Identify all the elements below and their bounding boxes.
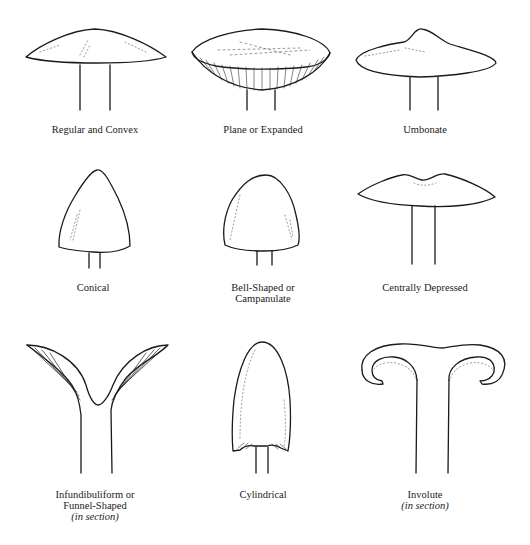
label-cylindrical: Cylindrical bbox=[178, 489, 348, 500]
label-text: Campanulate bbox=[178, 293, 348, 304]
label-conical: Conical bbox=[8, 282, 178, 293]
bell-shaped-illustration bbox=[224, 175, 299, 265]
centrally-depressed-illustration bbox=[358, 174, 495, 264]
label-text: Centrally Depressed bbox=[340, 282, 510, 293]
label-text: Regular and Convex bbox=[10, 124, 180, 135]
label-bell-shaped: Bell-Shaped or Campanulate bbox=[178, 282, 348, 304]
involute-illustration bbox=[362, 344, 505, 473]
label-text: Funnel-Shaped bbox=[10, 500, 180, 511]
label-text: Umbonate bbox=[340, 124, 510, 135]
umbonate-illustration bbox=[356, 29, 496, 110]
label-note: (in section) bbox=[340, 500, 510, 511]
label-note: (in section) bbox=[10, 511, 180, 522]
infundibuliform-illustration bbox=[27, 345, 168, 473]
label-involute: Involute (in section) bbox=[340, 489, 510, 511]
cap-shapes-figure bbox=[0, 0, 530, 545]
label-text: Involute bbox=[340, 489, 510, 500]
conical-illustration bbox=[59, 170, 130, 268]
cylindrical-illustration bbox=[232, 342, 290, 473]
label-text: Bell-Shaped or bbox=[178, 282, 348, 293]
regular-convex-illustration bbox=[26, 29, 166, 110]
label-text: Plane or Expanded bbox=[178, 124, 348, 135]
label-umbonate: Umbonate bbox=[340, 124, 510, 135]
label-text: Cylindrical bbox=[178, 489, 348, 500]
label-plane-expanded: Plane or Expanded bbox=[178, 124, 348, 135]
label-infundibuliform: Infundibuliform or Funnel-Shaped (in sec… bbox=[10, 489, 180, 522]
label-centrally-depressed: Centrally Depressed bbox=[340, 282, 510, 293]
label-regular-convex: Regular and Convex bbox=[10, 124, 180, 135]
plane-expanded-illustration bbox=[192, 29, 330, 110]
label-text: Conical bbox=[8, 282, 178, 293]
label-text: Infundibuliform or bbox=[10, 489, 180, 500]
